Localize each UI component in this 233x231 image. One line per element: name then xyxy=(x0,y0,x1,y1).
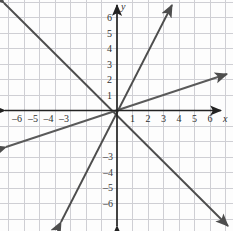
y-tick-4: 4 xyxy=(107,44,112,54)
y-tick-6: 6 xyxy=(107,13,112,23)
x-tick-5: 5 xyxy=(192,114,197,124)
x-tick-2: 2 xyxy=(146,114,151,124)
x-axis-label: x xyxy=(223,114,227,124)
x-tick-1: 1 xyxy=(130,114,135,124)
coordinate-plane-graph: –6 –5 –4 –3 1 2 3 4 5 6 6 5 4 3 2 1 –3 –… xyxy=(0,0,233,231)
x-tick-neg5: –5 xyxy=(28,114,38,124)
y-tick-neg5: –5 xyxy=(103,183,113,193)
x-tick-6: 6 xyxy=(208,114,213,124)
x-tick-4: 4 xyxy=(177,114,182,124)
y-tick-5: 5 xyxy=(107,29,112,39)
y-axis-label: y xyxy=(121,2,125,12)
y-tick-1: 1 xyxy=(107,91,112,101)
x-tick-neg3: –3 xyxy=(59,114,69,124)
y-tick-3: 3 xyxy=(107,60,112,70)
x-tick-neg6: –6 xyxy=(12,114,22,124)
y-tick-neg6: –6 xyxy=(103,199,113,209)
y-tick-neg4: –4 xyxy=(103,168,113,178)
y-tick-neg3: –3 xyxy=(103,152,113,162)
y-tick-2: 2 xyxy=(107,75,112,85)
x-tick-neg4: –4 xyxy=(44,114,54,124)
x-tick-3: 3 xyxy=(161,114,166,124)
